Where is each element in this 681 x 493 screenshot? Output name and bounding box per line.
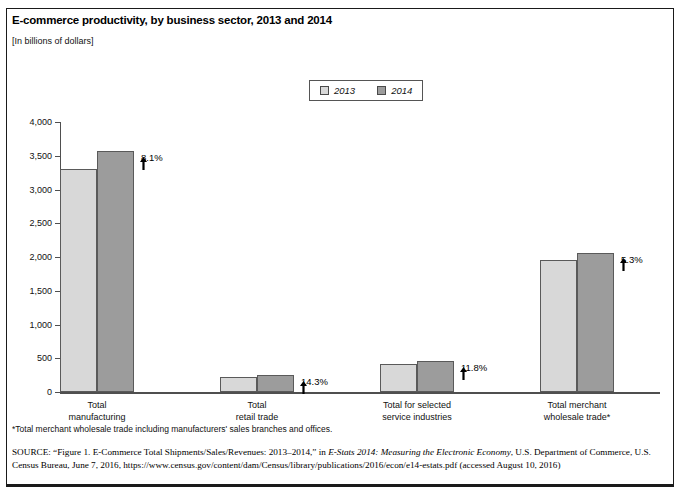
bar-2014-group-3 <box>417 361 454 392</box>
legend-item-2013: 2013 <box>320 85 355 96</box>
source-label: SOURCE: <box>12 447 51 457</box>
bar-2014-group-2 <box>257 375 294 392</box>
bar-chart-plot-area: 05001,0001,5002,0002,5003,0003,5004,0008… <box>60 122 660 392</box>
y-axis-tick-label: 4,000 <box>6 117 52 127</box>
x-axis-category-label: Total for selectedservice industries <box>357 400 477 423</box>
y-axis-tick <box>55 122 60 123</box>
growth-annotation-group-1: 8.1% <box>140 152 163 163</box>
y-axis-tick-label: 3,000 <box>6 185 52 195</box>
y-axis-tick-label: 2,000 <box>6 252 52 262</box>
growth-annotation-group-4: 5.3% <box>620 254 643 265</box>
category-label-line: Total <box>37 400 157 412</box>
y-axis-tick-label: 500 <box>6 353 52 363</box>
y-axis-tick-label: 1,000 <box>6 320 52 330</box>
y-axis-tick <box>55 156 60 157</box>
bar-2013-group-1 <box>60 169 97 392</box>
figure-panel: E-commerce productivity, by business sec… <box>0 0 681 493</box>
x-axis-category-label: Totalmanufacturing <box>37 400 157 423</box>
category-label-line: Total for selected <box>357 400 477 412</box>
legend-item-2014: 2014 <box>377 85 412 96</box>
category-label-line: service industries <box>357 412 477 424</box>
legend-swatch-2014 <box>377 86 386 95</box>
x-axis-category-label: Totalretail trade <box>197 400 317 423</box>
bar-2013-group-4 <box>540 260 577 392</box>
source-text-part1: “Figure 1. E-Commerce Total Shipments/Sa… <box>51 447 328 457</box>
chart-legend: 2013 2014 <box>309 80 423 101</box>
figure-title: E-commerce productivity, by business sec… <box>12 14 332 26</box>
legend-label-2014: 2014 <box>391 85 412 96</box>
bar-2014-group-1 <box>97 151 134 392</box>
y-axis-tick-label: 1,500 <box>6 286 52 296</box>
category-label-line: Total <box>197 400 317 412</box>
bar-2014-group-4 <box>577 253 614 392</box>
x-axis-line <box>60 392 660 394</box>
category-label-line: retail trade <box>197 412 317 424</box>
y-axis-tick-label: 3,500 <box>6 151 52 161</box>
figure-units-note: [In billions of dollars] <box>12 36 94 46</box>
category-label-line: manufacturing <box>37 412 157 424</box>
y-axis-tick-label: 2,500 <box>6 218 52 228</box>
category-label-line: wholesale trade* <box>517 412 637 424</box>
growth-annotation-group-3: 11.8% <box>460 362 487 373</box>
y-axis-tick <box>55 392 60 393</box>
bottom-rule <box>6 485 674 487</box>
legend-swatch-2013 <box>320 86 329 95</box>
x-axis-category-label: Total merchantwholesale trade* <box>517 400 637 423</box>
bar-2013-group-3 <box>380 364 417 392</box>
figure-source: SOURCE: “Figure 1. E-Commerce Total Ship… <box>12 446 660 471</box>
y-axis-tick-label: 0 <box>6 387 52 397</box>
growth-annotation-group-2: 14.3% <box>300 376 328 387</box>
figure-footnote: *Total merchant wholesale trade includin… <box>12 424 332 434</box>
source-title-italic: E-Stats 2014: Measuring the Electronic E… <box>328 447 511 457</box>
legend-label-2013: 2013 <box>334 85 355 96</box>
bar-2013-group-2 <box>220 377 257 392</box>
category-label-line: Total merchant <box>517 400 637 412</box>
